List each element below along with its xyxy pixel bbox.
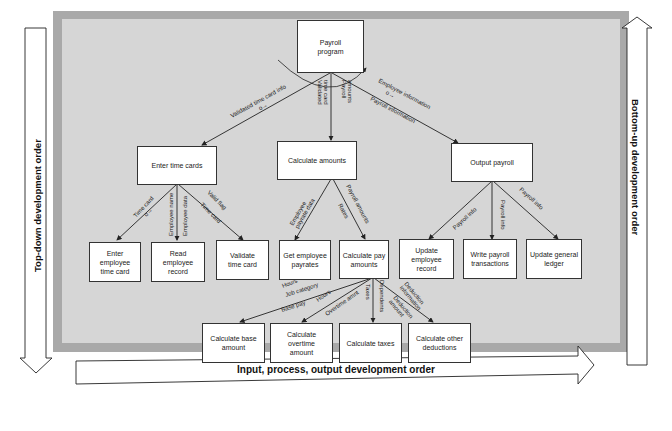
flow-employee-information: Employee information o→	[374, 78, 431, 117]
svg-text:Payroll amounts: Payroll amounts	[345, 184, 370, 225]
svg-text:Dependents: Dependents	[379, 280, 385, 312]
link-root-enter-time-cards	[202, 73, 330, 145]
flow-rates: Rates	[337, 203, 350, 220]
flow-taxes: Taxes	[365, 284, 371, 300]
svg-text:Validated: Validated	[317, 80, 323, 105]
flow-payroll-info-1: Payroll info	[452, 206, 479, 231]
flow-time-card: Time card o→	[132, 195, 160, 223]
svg-text:Employee data: Employee data	[182, 195, 188, 236]
flow-validated-time-card: Validated time card	[317, 80, 329, 105]
node-calculate-pay-amounts[interactable]: Calculate pay amounts	[339, 240, 389, 279]
node-calculate-taxes[interactable]: Calculate taxes	[339, 323, 402, 363]
flow-dependents: Dependents	[379, 280, 385, 312]
flow-validated-time-card-info: Validated time card info o→	[230, 83, 291, 125]
node-enter-time-cards[interactable]: Enter time cards	[137, 146, 217, 185]
node-output-payroll[interactable]: Output payroll	[451, 143, 533, 182]
node-calculate-amounts[interactable]: Calculate amounts	[277, 141, 357, 180]
svg-text:Rates: Rates	[337, 203, 350, 220]
node-calculate-overtime-amount[interactable]: Calculate overtime amount	[270, 323, 333, 363]
svg-text:time card: time card	[323, 80, 329, 105]
svg-text:Payroll information: Payroll information	[370, 96, 417, 125]
flow-payroll-amounts: Payroll amounts	[341, 80, 353, 103]
link-op-update-employee	[429, 181, 492, 239]
flow-payroll-amounts-3: Payroll amounts	[345, 184, 370, 225]
svg-text:amounts: amounts	[347, 80, 353, 103]
flow-employee-data: Employee data	[182, 195, 188, 236]
flow-employee-name: Employee name	[168, 192, 174, 236]
svg-text:Base pay: Base pay	[280, 300, 306, 313]
ipo-label: Input, process, output development order	[237, 364, 435, 375]
node-update-employee-record[interactable]: Update employee record	[399, 239, 454, 279]
svg-text:Payroll: Payroll	[341, 80, 347, 98]
flow-payroll-information: Payroll information	[370, 96, 417, 125]
svg-text:Taxes: Taxes	[365, 284, 371, 300]
svg-text:Employee name: Employee name	[168, 192, 174, 236]
svg-text:Payroll info: Payroll info	[452, 206, 479, 231]
node-calculate-other-deductions[interactable]: Calculate other deductions	[408, 323, 471, 363]
node-calculate-base-amount[interactable]: Calculate base amount	[202, 323, 265, 363]
node-validate-time-card[interactable]: Validate time card	[216, 240, 269, 280]
node-get-employee-payrates[interactable]: Get employee payrates	[279, 240, 331, 280]
node-read-employee-record[interactable]: Read employee record	[151, 242, 205, 282]
svg-text:Payroll info: Payroll info	[500, 200, 506, 230]
flow-payroll-info-2: Payroll info	[500, 200, 506, 230]
flow-base-pay: Base pay	[280, 300, 306, 313]
flow-hours-2: Hours	[315, 289, 332, 303]
node-write-payroll-transactions[interactable]: Write payroll transactions	[463, 239, 517, 279]
diagram-canvas: Validated time card info o→ Validated ti…	[0, 0, 672, 431]
svg-text:Hours: Hours	[315, 289, 332, 303]
node-enter-employee-time-card[interactable]: Enter employee time card	[89, 242, 141, 282]
bottom-up-label: Bottom-up development order	[630, 99, 641, 235]
top-down-label: Top-down development order	[32, 139, 43, 272]
node-payroll-program[interactable]: Payroll program	[297, 20, 364, 73]
node-update-general-ledger[interactable]: Update general ledger	[526, 239, 582, 279]
